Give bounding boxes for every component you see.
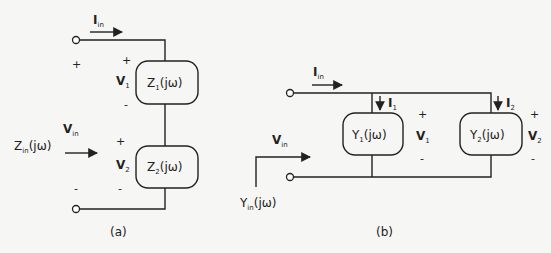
bottom-wire-a [79, 188, 165, 209]
bottom-wire-b [294, 155, 491, 177]
i2-label: I2 [506, 96, 515, 112]
v2-plus-sign: + [116, 135, 125, 148]
y1-label: Y1(jω) [351, 128, 387, 144]
v2-minus-sign: - [118, 182, 122, 195]
v1-plus-sign: + [122, 54, 131, 67]
v2-label: V2 [116, 158, 130, 174]
zin-label: Zin(jω) [14, 139, 51, 155]
vin-label-a: Vin [63, 122, 79, 138]
vin-label-b: Vin [272, 133, 288, 149]
v1-label-b: V1 [416, 129, 430, 145]
v1-label: V1 [116, 74, 130, 90]
yin-label: Yin(jω) [239, 196, 276, 212]
circuit-diagrams: Iin Z1(jω) Z2(jω) + V1 - + V2 - + - Vin [0, 0, 551, 253]
v2-minus-sign-b: - [531, 152, 535, 165]
z2-label: Z2(jω) [147, 160, 182, 176]
z1-label: Z1(jω) [147, 76, 182, 92]
input-plus-sign-a: + [72, 58, 81, 71]
v1-minus-sign: - [124, 98, 128, 111]
v1-minus-sign-b: - [420, 152, 424, 165]
caption-b: (b) [376, 225, 393, 239]
v2-label-b: V2 [528, 129, 542, 145]
v1-plus-sign-b: + [418, 108, 427, 121]
figure-a-series-circuit: Iin Z1(jω) Z2(jω) + V1 - + V2 - + - Vin [14, 13, 198, 239]
y2-label: Y2(jω) [469, 128, 505, 144]
current-label-b: Iin [313, 65, 324, 81]
bottom-terminal-a [73, 206, 80, 213]
figure-b-parallel-circuit: Iin I1 I2 Y1(jω) Y2(jω) + V1 - + V2 [239, 65, 542, 239]
bottom-terminal-b [287, 174, 294, 181]
top-terminal-a [73, 37, 80, 44]
v2-plus-sign-b: + [530, 108, 539, 121]
vin-arrow-icon-b [256, 157, 310, 187]
current-label-a: Iin [93, 13, 104, 29]
i1-label: I1 [388, 96, 397, 112]
top-terminal-b [287, 90, 294, 97]
input-minus-sign-a: - [74, 182, 78, 195]
caption-a: (a) [110, 225, 127, 239]
